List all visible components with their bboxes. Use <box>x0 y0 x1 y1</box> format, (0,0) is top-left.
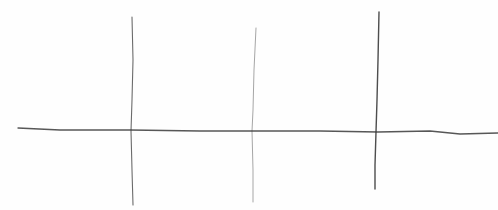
sketch-drawing <box>0 0 498 210</box>
sketch-canvas <box>0 0 498 210</box>
vertical-line-left <box>131 17 133 205</box>
vertical-line-right <box>375 12 379 189</box>
horizontal-line <box>18 128 498 134</box>
vertical-line-middle <box>252 28 256 202</box>
